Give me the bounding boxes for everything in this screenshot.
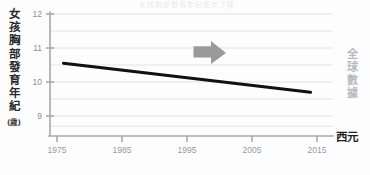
plot-area: 1211109 19751985199520052015 <box>0 0 370 175</box>
x-axis-tick-label: 1985 <box>113 145 132 155</box>
y-axis-tick-label: 9 <box>37 111 42 121</box>
y-axis-tick-label: 11 <box>33 43 42 53</box>
x-axis-tick-label: 1975 <box>48 145 67 155</box>
gridlines <box>50 14 333 126</box>
x-axis-tick-label: 1995 <box>178 145 197 155</box>
right-arrow-icon <box>194 41 227 64</box>
chart-figure: 女孩胸部發育年紀逐年下降 女 孩 胸 部 發 育 年 紀 (歲) 全 球 數 據… <box>0 0 370 175</box>
y-axis-tick-label: 10 <box>33 77 43 87</box>
x-axis-ticks: 19751985199520052015 <box>48 136 327 155</box>
trend-line-series <box>64 63 311 92</box>
x-axis-tick-label: 2015 <box>308 145 327 155</box>
y-axis-tick-label: 12 <box>33 9 43 19</box>
x-axis-tick-label: 2005 <box>243 145 262 155</box>
